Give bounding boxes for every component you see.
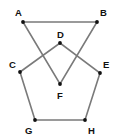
vertex-a xyxy=(21,20,25,24)
label-a: A xyxy=(15,7,22,18)
label-h: H xyxy=(88,125,95,136)
vertex-g xyxy=(33,118,37,122)
label-f: F xyxy=(57,90,63,101)
label-e: E xyxy=(103,59,109,70)
label-g: G xyxy=(25,125,32,136)
vertex-h xyxy=(83,118,87,122)
label-d: D xyxy=(57,29,64,40)
label-b: B xyxy=(100,7,107,18)
vertex-c xyxy=(18,70,22,74)
geometry-diagram: ABCDEFGH xyxy=(0,0,115,137)
vertex-d xyxy=(58,41,62,45)
vertex-b xyxy=(95,20,99,24)
vertex-f xyxy=(58,82,62,86)
vertex-e xyxy=(98,71,102,75)
pentagon-CDEHG xyxy=(20,43,100,120)
label-c: C xyxy=(9,59,16,70)
